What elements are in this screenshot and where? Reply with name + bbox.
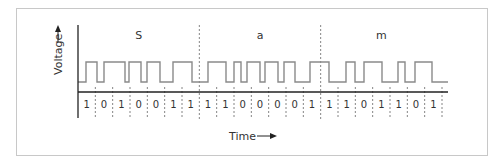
- bit-label: 0: [153, 99, 159, 110]
- bit-label: 1: [343, 99, 349, 110]
- character-labels: Sam: [135, 29, 387, 42]
- bit-labels: 101001111000011101101: [83, 99, 436, 110]
- bit-label: 0: [291, 99, 297, 110]
- bit-label: 1: [187, 99, 193, 110]
- bit-label: 0: [257, 99, 263, 110]
- bit-label: 0: [274, 99, 280, 110]
- bit-label: 0: [101, 99, 107, 110]
- x-axis-arrow-icon: [257, 133, 277, 139]
- bit-label: 1: [222, 99, 228, 110]
- character-label: S: [135, 29, 142, 42]
- bit-label: 1: [326, 99, 332, 110]
- bit-label: 1: [170, 99, 176, 110]
- bit-label: 0: [413, 99, 419, 110]
- bit-label: 1: [430, 99, 436, 110]
- bit-label: 1: [83, 99, 89, 110]
- bit-label: 1: [118, 99, 124, 110]
- waveform-diagram: 101001111000011101101 Sam Voltage Time: [0, 0, 503, 167]
- bit-label: 0: [135, 99, 141, 110]
- x-axis-label: Time: [228, 130, 256, 143]
- bit-label: 1: [309, 99, 315, 110]
- bit-label: 1: [205, 99, 211, 110]
- bit-label: 1: [395, 99, 401, 110]
- bit-label: 1: [378, 99, 384, 110]
- signal-waveform: [78, 62, 448, 82]
- bit-label: 0: [361, 99, 367, 110]
- character-label: a: [257, 29, 264, 42]
- character-label: m: [376, 29, 387, 42]
- bit-label: 0: [239, 99, 245, 110]
